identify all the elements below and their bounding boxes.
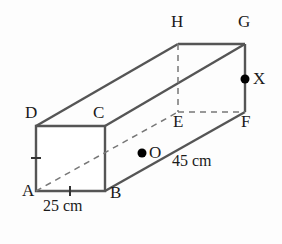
vertex-label-g: G bbox=[238, 13, 250, 30]
point-x-dot bbox=[241, 75, 250, 84]
point-o-dot bbox=[138, 149, 147, 158]
measurement-label-length: 45 cm bbox=[172, 153, 212, 169]
vertex-label-a: A bbox=[22, 182, 34, 199]
vertex-label-b: B bbox=[110, 184, 121, 201]
geometry-figure: A B C D E F G H O X 25 cm 45 cm bbox=[0, 0, 282, 244]
vertex-label-f: F bbox=[241, 113, 250, 130]
vertex-label-h: H bbox=[171, 13, 183, 30]
measurement-label-width: 25 cm bbox=[43, 198, 83, 214]
edge-d-h bbox=[36, 44, 178, 126]
point-label-x: X bbox=[253, 70, 265, 87]
point-label-o: O bbox=[149, 144, 161, 161]
vertex-label-e: E bbox=[173, 113, 183, 130]
vertex-label-c: C bbox=[93, 104, 104, 121]
vertex-label-d: D bbox=[25, 104, 37, 121]
